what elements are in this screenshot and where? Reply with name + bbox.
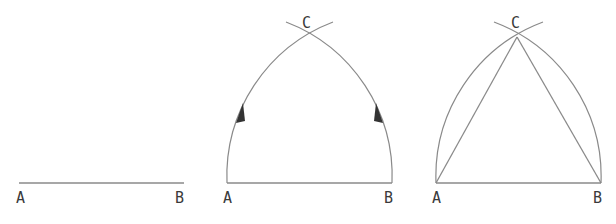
arrow-up-icon	[374, 103, 383, 123]
arc-from-a	[286, 22, 392, 183]
figure-svg: A B A B C A B C	[0, 0, 616, 224]
label-a: A	[223, 189, 232, 207]
label-c: C	[302, 14, 311, 32]
label-a: A	[432, 189, 441, 207]
arrow-up-icon	[236, 103, 245, 123]
label-b: B	[593, 189, 602, 207]
label-b: B	[175, 189, 184, 207]
arc-from-b	[227, 22, 333, 183]
label-b: B	[384, 189, 393, 207]
panel-arcs: A B C	[223, 14, 393, 207]
label-c: C	[511, 14, 520, 32]
arc-from-b	[436, 22, 543, 183]
construction-figure: A B A B C A B C	[0, 0, 616, 224]
segment-ac	[436, 37, 517, 183]
segment-bc	[517, 37, 601, 183]
panel-triangle: A B C	[432, 14, 602, 207]
arc-from-a	[494, 22, 601, 183]
label-a: A	[16, 189, 25, 207]
panel-segment: A B	[16, 183, 184, 207]
